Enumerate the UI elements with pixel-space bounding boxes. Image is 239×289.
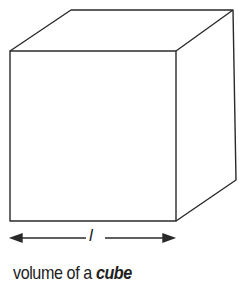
cube-top-face [10,10,233,51]
caption-emphasis: cube [96,262,132,283]
cube-front-face [10,51,176,221]
arrowhead-left-icon [11,234,22,242]
dimension-label: l [89,226,93,246]
caption-prefix: volume of a [13,262,96,283]
cube-right-face [176,10,236,221]
arrowhead-right-icon [163,234,174,242]
cube-diagram [0,0,239,289]
caption: volume of a cube [13,262,132,284]
